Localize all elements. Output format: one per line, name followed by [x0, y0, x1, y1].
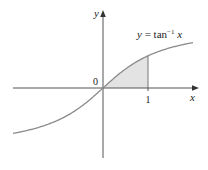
- x-axis-arrow-icon: [192, 85, 199, 91]
- x-tick-label-1: 1: [146, 94, 151, 105]
- arctan-figure: y x 0 1 y = tan−1 x: [0, 0, 208, 170]
- y-axis-label: y: [93, 7, 99, 19]
- x-axis-label: x: [189, 91, 195, 103]
- y-axis-arrow-icon: [100, 10, 106, 17]
- origin-label: 0: [93, 76, 98, 87]
- function-label: y = tan−1 x: [136, 28, 182, 40]
- function-label-arg: x: [175, 28, 183, 40]
- shaded-area-under-curve: [103, 56, 148, 88]
- function-label-eq: = tan: [142, 28, 168, 40]
- plot-area: y x 0 1 y = tan−1 x: [0, 0, 208, 170]
